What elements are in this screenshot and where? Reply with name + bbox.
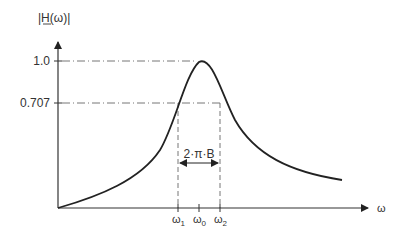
bandwidth-label: 2·π·B [184,147,215,161]
resonance-curve [58,61,342,208]
x-tick-label-omega2: ω2 [214,213,228,228]
x-axis-label: ω [377,202,386,214]
resonance-diagram: |H(ω)| 1.0 0.707 2·π·B ω1 ω0 ω2 ω [0,0,401,232]
x-tick-label-omega0: ω0 [193,213,207,228]
y-tick-label-0707: 0.707 [20,96,50,110]
x-tick-label-omega1: ω1 [172,213,186,228]
y-axis-label: |H(ω)| [38,11,70,25]
y-tick-label-1: 1.0 [33,54,50,68]
